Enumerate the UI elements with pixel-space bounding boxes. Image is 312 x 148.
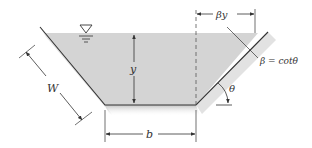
depth-label: y — [129, 63, 137, 76]
channel-diagram: y βy β = cotθ θ W b — [0, 0, 312, 148]
slope-definition-label: β = cotθ — [259, 56, 299, 66]
bottom-width-label: b — [146, 128, 153, 141]
angle-label: θ — [229, 83, 235, 94]
side-offset-label: βy — [215, 9, 228, 20]
wetted-side-label: W — [47, 82, 60, 95]
